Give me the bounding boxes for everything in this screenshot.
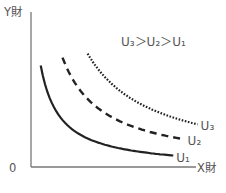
curve-label-u2: U₂	[188, 134, 202, 148]
curve-label-u3: U₃	[201, 119, 215, 133]
indifference-curve-u3	[88, 54, 198, 125]
curve-label-u1: U₁	[176, 151, 190, 165]
curve-labels-group: U₁U₂U₃	[176, 119, 214, 164]
x-axis-label: X財	[197, 161, 217, 175]
y-axis-label: Y財	[3, 5, 23, 19]
origin-label: 0	[9, 161, 16, 175]
curves-group	[41, 54, 198, 156]
indifference-curve-diagram: Y財 X財 0 U₃＞U₂＞U₁ U₁U₂U₃	[0, 0, 226, 193]
utility-ordering-annotation: U₃＞U₂＞U₁	[121, 35, 186, 49]
indifference-curve-u2	[63, 58, 185, 140]
